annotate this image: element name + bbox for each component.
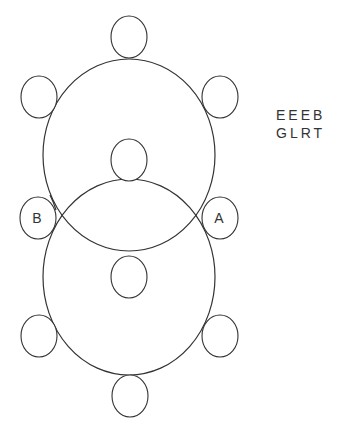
small-circle-bottom [112, 375, 148, 417]
diagram-canvas: B A [0, 0, 354, 433]
small-circle-lower-left [21, 315, 57, 357]
label-b: B [32, 210, 41, 226]
code-line-1: EEEB [276, 106, 325, 124]
small-circle-inner-top [111, 139, 147, 181]
small-circle-upper-left [21, 76, 57, 118]
code-line-2: GLRT [276, 124, 325, 142]
small-circle-lower-right [202, 315, 238, 357]
small-circle-inner-bottom [111, 256, 147, 298]
label-a: A [214, 210, 224, 226]
small-circle-top [111, 16, 147, 58]
small-circle-upper-right [202, 76, 238, 118]
